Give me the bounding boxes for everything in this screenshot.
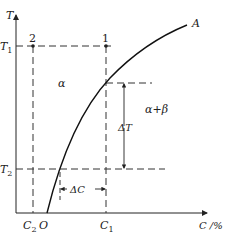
c2-label: C2: [23, 219, 37, 234]
delta-t-label: ΔT: [117, 122, 133, 133]
c1-label: C1: [100, 219, 114, 234]
x-axis-label: C /%: [199, 220, 223, 231]
curve-label-a: A: [191, 17, 200, 30]
t1-label: T1: [0, 40, 12, 55]
y-axis-label: T: [6, 9, 15, 22]
boundary-curve: [47, 25, 187, 213]
phase-diagram: T T1 T2 2 1 A α α+β ΔT ΔC C2 O C1 C /%: [0, 0, 229, 236]
origin-label: O: [39, 219, 48, 232]
point-2-label: 2: [29, 32, 36, 45]
delta-c-label: ΔC: [69, 184, 85, 195]
alpha-region-label: α: [58, 77, 66, 90]
t2-label: T2: [0, 163, 12, 178]
alpha-beta-region-label: α+β: [145, 103, 168, 116]
point-1-label: 1: [102, 32, 109, 45]
